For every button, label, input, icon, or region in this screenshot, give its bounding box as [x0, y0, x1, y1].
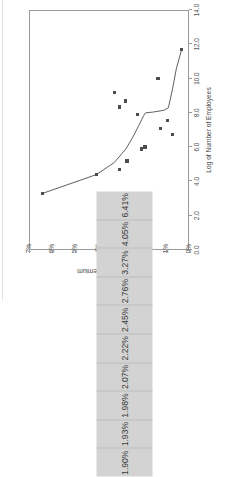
x-tick-label: 10.0 [193, 66, 200, 92]
scatter-point [113, 91, 116, 94]
y-tick-label: 7% [25, 244, 32, 274]
y-tick-mark [75, 250, 76, 253]
x-tick-mark [189, 9, 192, 10]
scatter-point [166, 119, 169, 122]
y-tick-mark [52, 250, 53, 253]
scatter-point [41, 192, 44, 195]
x-tick-mark [189, 78, 192, 79]
x-axis-label: Log of Number of Employees [205, 10, 212, 250]
scatter-point [171, 133, 174, 136]
y-tick-mark [29, 250, 30, 253]
table-cell: 1.93% [97, 419, 153, 448]
x-tick-mark [189, 249, 192, 250]
scatter-point [180, 48, 183, 51]
scatter-point [143, 145, 146, 148]
scatter-point [95, 173, 98, 176]
y-tick-mark [166, 250, 167, 253]
table-cell: 2.45% [97, 305, 153, 334]
table-cell: 2.76% [97, 276, 153, 305]
table-cell: 2.07% [97, 362, 153, 391]
values-table: 1.90%1.93%1.98%2.07%2.22%2.45%2.76%3.27%… [97, 192, 153, 477]
table-cell: 1.98% [97, 391, 153, 420]
scatter-point [125, 159, 128, 162]
x-tick-label: 12.0 [193, 31, 200, 57]
x-tick-label: 0.0 [193, 237, 200, 263]
page-edge-line [2, 0, 3, 300]
table-cell: 4.05% [97, 219, 153, 248]
scatter-point [124, 99, 127, 102]
y-tick-label: 1% [162, 244, 169, 274]
x-tick-mark [189, 146, 192, 147]
x-tick-label: 6.0 [193, 134, 200, 160]
x-tick-label: 8.0 [193, 100, 200, 126]
table-cell: 1.90% [97, 448, 153, 477]
x-tick-mark [189, 180, 192, 181]
x-tick-label: 14.0 [193, 0, 200, 23]
values-table-row: 1.90%1.93%1.98%2.07%2.22%2.45%2.76%3.27%… [97, 192, 153, 477]
x-tick-label: 2.0 [193, 203, 200, 229]
scatter-point [156, 77, 159, 80]
table-cell: 2.22% [97, 334, 153, 363]
table-cell: 6.41% [97, 192, 153, 220]
x-tick-mark [189, 112, 192, 113]
scatter-point [136, 113, 139, 116]
table-cell: 3.27% [97, 248, 153, 277]
x-tick-mark [189, 43, 192, 44]
scatter-point [118, 168, 121, 171]
scatter-point [159, 127, 162, 130]
x-tick-label: 4.0 [193, 168, 200, 194]
y-tick-mark [189, 250, 190, 253]
y-tick-label: 6% [48, 244, 55, 274]
scatter-point [118, 105, 121, 108]
x-tick-mark [189, 215, 192, 216]
